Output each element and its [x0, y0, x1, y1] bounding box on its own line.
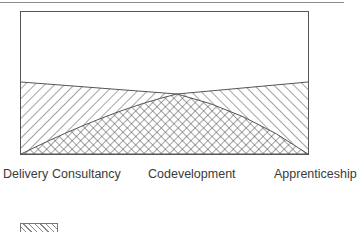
label-apprenticeship: Apprenticeship — [274, 167, 357, 181]
label-delivery: Delivery — [3, 167, 48, 181]
label-consultancy: Consultancy — [52, 167, 121, 181]
label-codevelopment: Codevelopment — [148, 167, 236, 181]
legend-swatch — [20, 223, 58, 232]
